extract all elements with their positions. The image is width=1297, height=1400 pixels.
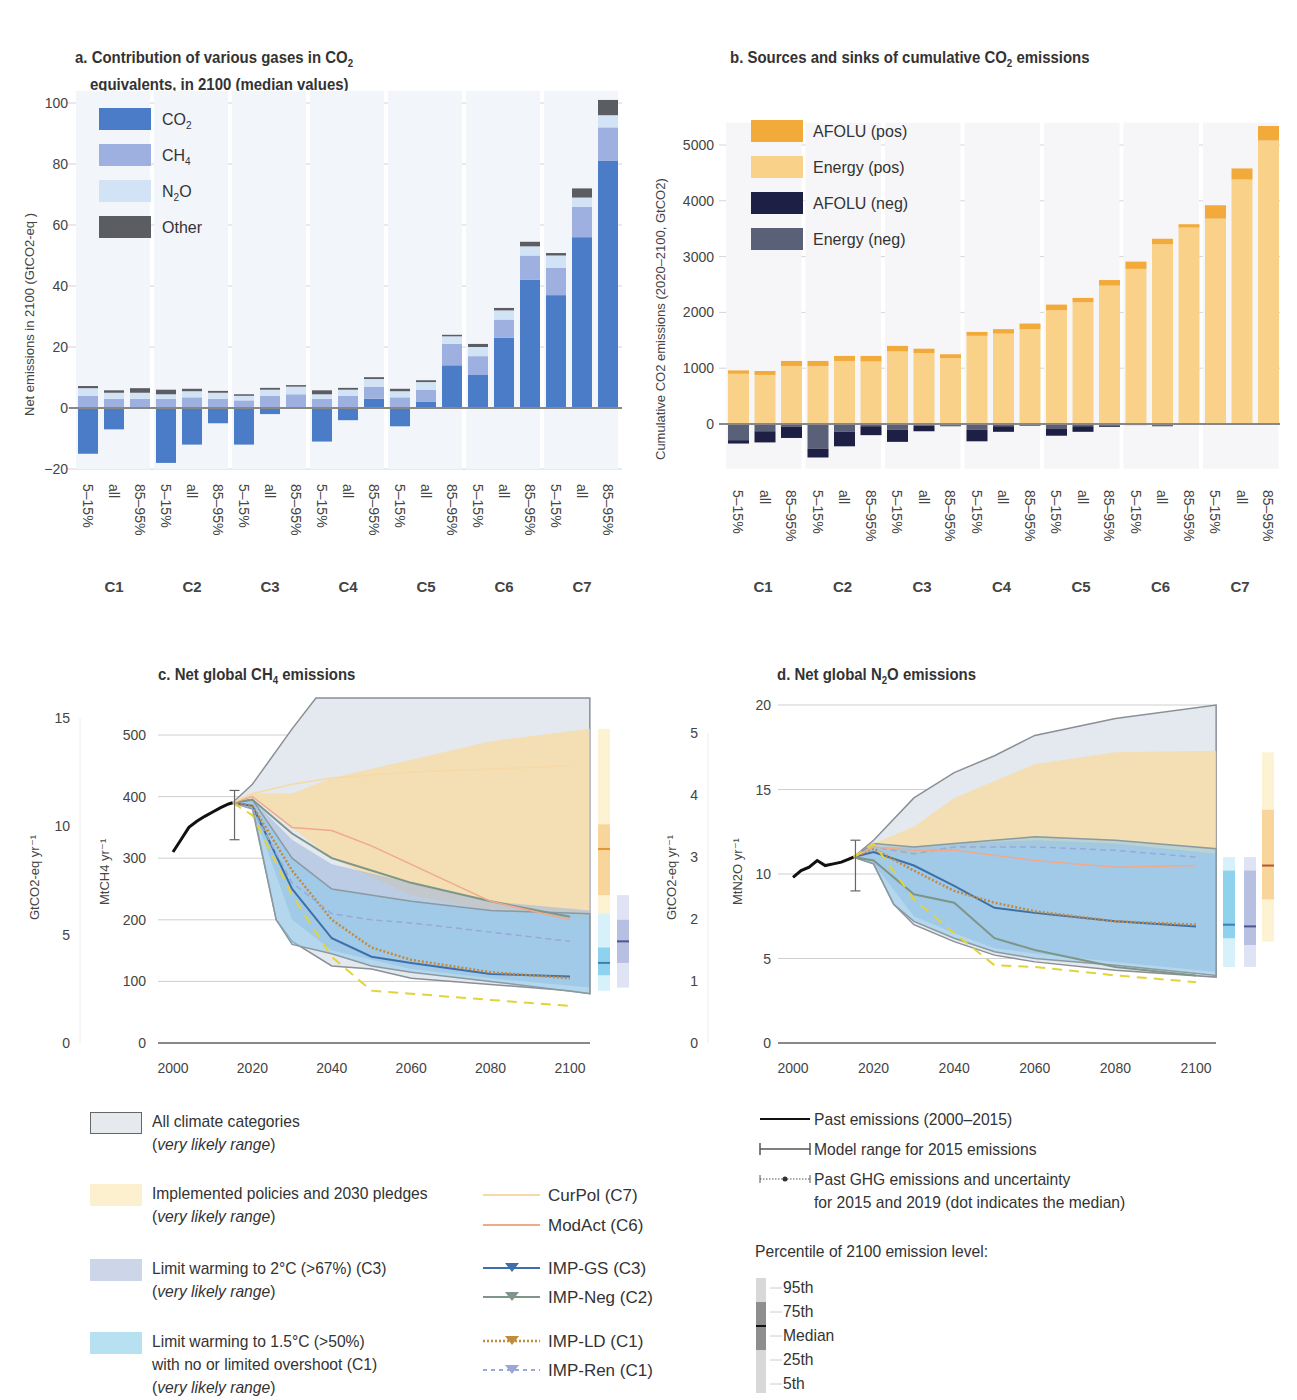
bar-afolu-pos	[1232, 168, 1253, 179]
bar-other	[364, 377, 384, 379]
bar-energy-pos	[1258, 141, 1279, 424]
bar-afolu-pos	[1152, 239, 1173, 245]
legend-line-label: IMP-Ren (C1)	[548, 1361, 653, 1380]
legend-swatch	[99, 180, 151, 202]
x-tick: 2080	[475, 1060, 506, 1076]
bar-ch4	[468, 356, 488, 374]
chart-a-ylabel: Net emissions in 2100 (GtCO2-eq )	[22, 213, 37, 416]
x-category: all	[496, 484, 512, 498]
bar-afolu-pos	[1126, 262, 1147, 269]
x-category: all	[184, 484, 200, 498]
x-category: 5–15%	[548, 484, 564, 528]
bar-afolu-pos	[967, 332, 988, 336]
bar-other	[208, 391, 228, 393]
bar-n2o	[234, 396, 254, 401]
bar-energy-pos	[914, 353, 935, 424]
bar-n2o	[572, 198, 592, 207]
bar-ch4	[390, 397, 410, 408]
bar-co2	[598, 161, 618, 408]
y-tick-gt: 0	[62, 1035, 70, 1051]
bar-other	[416, 380, 436, 382]
bar-ch4	[546, 268, 566, 295]
x-category: all	[1234, 490, 1250, 504]
x-category: all	[1154, 490, 1170, 504]
legend-line-label: ModAct (C6)	[548, 1216, 643, 1235]
y-tick: 4000	[683, 193, 714, 209]
chart-c-title: c. Net global CH4 emissions	[158, 664, 355, 691]
x-category: 5–15%	[236, 484, 252, 528]
x-category: 5–15%	[392, 484, 408, 528]
bar-afolu-pos	[914, 349, 935, 353]
bar-afolu-neg	[914, 426, 935, 432]
y-tick-gt: 0	[690, 1035, 698, 1051]
x-category: 85–95%	[783, 490, 799, 541]
y-tick: 100	[45, 95, 69, 111]
x-category: 85–95%	[863, 490, 879, 541]
bar-co2	[104, 408, 124, 429]
y-tick: 3000	[683, 249, 714, 265]
bar-n2o	[442, 336, 462, 344]
bar-energy-pos	[781, 366, 802, 424]
percentile-median: Median	[783, 1324, 834, 1348]
bar-afolu-pos	[1046, 305, 1067, 311]
x-category: 5–15%	[810, 490, 826, 534]
bar-energy-pos	[887, 351, 908, 424]
chart-b-plot: 5000400030002000100005–15%all85–95%5–15%…	[640, 0, 1297, 610]
bar-afolu-pos	[1099, 280, 1120, 286]
bar-afolu-pos	[1179, 224, 1200, 227]
percentile-5: 5th	[783, 1372, 834, 1396]
bar-ch4	[260, 396, 280, 408]
pathway-legend: CurPol (C7)ModAct (C6)IMP-GS (C3)IMP-Neg…	[478, 1170, 678, 1400]
bar-ch4	[156, 399, 176, 408]
bar-other	[286, 385, 306, 387]
bar-ch4	[104, 399, 124, 408]
bar-afolu-neg	[940, 426, 961, 427]
bar-co2	[364, 399, 384, 408]
bar-energy-pos	[993, 334, 1014, 424]
bar-co2	[494, 338, 514, 408]
chart-a-plot: 100806040200−205–15%all85–95%5–15%all85–…	[0, 0, 640, 610]
bar-n2o	[546, 256, 566, 268]
bar-ch4	[494, 320, 514, 338]
y-tick-mt: 400	[123, 789, 147, 805]
group-label: C1	[753, 578, 772, 595]
y-tick-gt: 2	[690, 911, 698, 927]
x-tick: 2040	[939, 1060, 970, 1076]
bar-energy-pos	[1073, 302, 1094, 424]
bar-n2o	[104, 393, 124, 399]
legend-line-label: CurPol (C7)	[548, 1186, 638, 1205]
bar-afolu-pos	[728, 370, 749, 373]
y-tick: 40	[52, 278, 68, 294]
x-tick: 2060	[396, 1060, 427, 1076]
x-tick: 2020	[237, 1060, 268, 1076]
y-tick-gt: 1	[690, 973, 698, 989]
x-category: 85–95%	[1260, 490, 1276, 541]
bar-afolu-pos	[940, 354, 961, 358]
group-label: C1	[104, 578, 123, 595]
bar-co2	[520, 280, 540, 408]
bar-afolu-neg	[1046, 429, 1067, 436]
y-tick-gt: 4	[690, 787, 698, 803]
y-tick-gt: 10	[54, 818, 70, 834]
x-tick: 2020	[858, 1060, 889, 1076]
bar-energy-pos	[755, 375, 776, 424]
group-label: C2	[182, 578, 201, 595]
percentile-title: Percentile of 2100 emission level:	[755, 1240, 988, 1263]
legend-label: AFOLU (pos)	[813, 123, 907, 140]
bar-afolu-neg	[781, 427, 802, 438]
legend-line-label: IMP-Neg (C2)	[548, 1288, 653, 1307]
x-category: all	[995, 490, 1011, 504]
bar-other	[78, 386, 98, 388]
bar-afolu-pos	[1205, 205, 1226, 218]
bar-co2	[546, 295, 566, 408]
x-category: 85–95%	[942, 490, 958, 541]
bar-n2o	[468, 347, 488, 356]
bar-co2	[572, 237, 592, 408]
past-ghg-label: Past GHG emissions and uncertaintyfor 20…	[814, 1168, 1125, 1214]
bar-afolu-neg	[1020, 425, 1041, 426]
swatch-all-categories	[90, 1112, 142, 1134]
bar-afolu-neg	[834, 432, 855, 447]
bar-afolu-neg	[887, 430, 908, 442]
bar-energy-pos	[861, 362, 882, 424]
bar-ch4	[520, 256, 540, 280]
